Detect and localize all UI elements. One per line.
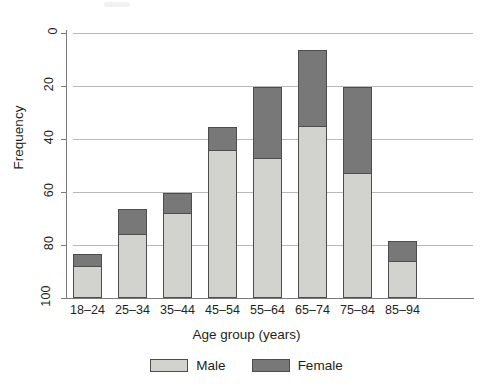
bar-segment-female[interactable] [253, 87, 282, 159]
bar-segment-female[interactable] [118, 209, 147, 236]
y-tick-text: 60 [42, 183, 56, 197]
bar-group[interactable] [73, 25, 102, 298]
bar-segment-male[interactable] [163, 213, 192, 298]
bar-segment-male[interactable] [73, 266, 102, 298]
legend: MaleFemale [0, 358, 493, 373]
bar-segment-male[interactable] [343, 173, 372, 298]
bar-segment-male[interactable] [298, 126, 327, 298]
y-tick-label-80: 20 [0, 77, 56, 91]
y-tick-text: 20 [42, 77, 56, 91]
y-tick-label-100: 0 [0, 24, 56, 38]
bar-group[interactable] [163, 25, 192, 298]
y-tick-label-40: 60 [0, 183, 56, 197]
legend-swatch-male [150, 359, 188, 372]
legend-label-female: Female [298, 358, 343, 373]
bar-segment-female[interactable] [163, 193, 192, 214]
bar-chart: Frequency 100806040200 18–2425–3435–4445… [0, 0, 493, 387]
bar-segment-male[interactable] [118, 234, 147, 298]
y-tick-text: 80 [42, 236, 56, 250]
bar-segment-female[interactable] [208, 127, 237, 151]
x-tick-label-7: 85–94 [376, 303, 430, 317]
legend-swatch-female [252, 359, 290, 372]
y-tick-label-60: 40 [0, 130, 56, 144]
y-tick-text: 40 [42, 130, 56, 144]
bar-group[interactable] [208, 25, 237, 298]
y-tick-text: 0 [45, 27, 59, 34]
legend-item-female[interactable]: Female [252, 358, 343, 373]
y-tick-text: 100 [38, 285, 52, 306]
y-tick-label-20: 80 [0, 236, 56, 250]
bar-group[interactable] [298, 25, 327, 298]
bar-segment-female[interactable] [73, 254, 102, 267]
bar-segment-male[interactable] [208, 150, 237, 298]
y-axis-line [66, 30, 67, 299]
legend-label-male: Male [196, 358, 225, 373]
scan-artifact [104, 2, 130, 7]
x-axis-line [66, 298, 474, 299]
bar-segment-female[interactable] [343, 87, 372, 174]
bar-group[interactable] [118, 25, 147, 298]
bar-group[interactable] [343, 25, 372, 298]
legend-item-male[interactable]: Male [150, 358, 225, 373]
bar-group[interactable] [253, 25, 282, 298]
bar-segment-female[interactable] [388, 241, 417, 262]
bar-segment-female[interactable] [298, 50, 327, 127]
x-axis-title: Age group (years) [0, 327, 493, 342]
y-tick-label-0: 100 [0, 289, 56, 303]
bar-group[interactable] [388, 25, 417, 298]
bar-segment-male[interactable] [388, 261, 417, 298]
plot-area [73, 25, 473, 298]
bar-segment-male[interactable] [253, 158, 282, 298]
